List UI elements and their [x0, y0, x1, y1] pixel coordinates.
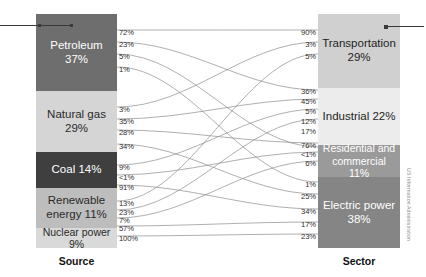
sector-flow-label: <1% — [301, 150, 316, 159]
node-natural-gas[interactable]: Natural gas 29% — [36, 91, 117, 152]
source-flow-label: 9% — [119, 163, 130, 172]
source-flow-label: 23% — [119, 40, 134, 49]
source-flow-label: 35% — [119, 117, 134, 126]
sector-flow-label: 6% — [305, 159, 316, 168]
source-flow-label: 91% — [119, 183, 134, 192]
source-flow-label: 28% — [119, 128, 134, 137]
node-residential-commercial-label: Residential and commercial 11% — [318, 142, 400, 179]
source-flow-label: 3% — [119, 105, 130, 114]
sector-flow-label: 45% — [301, 97, 316, 106]
source-flow-label: 1% — [119, 65, 130, 74]
node-coal-label: Coal 14% — [49, 163, 105, 177]
sector-flow-label: 5% — [305, 52, 316, 61]
sector-flow-label: 76% — [301, 141, 316, 150]
sector-flow-label: 1% — [305, 180, 316, 189]
sector-flow-label: 36% — [301, 87, 316, 96]
sector-flow-label: 25% — [301, 192, 316, 201]
sector-flow-label: 12% — [301, 117, 316, 126]
source-flow-label: 5% — [119, 52, 130, 61]
right-leader-line — [388, 26, 424, 27]
source-flow-label: <1% — [119, 173, 134, 182]
node-industrial-label: Industrial 22% — [320, 110, 399, 124]
axis-label-source: Source — [36, 255, 117, 267]
node-petroleum-label: Petroleum 37% — [36, 39, 117, 66]
node-industrial[interactable]: Industrial 22% — [318, 88, 400, 145]
axis-label-sector: Sector — [318, 255, 400, 267]
node-renewable-energy-label: Renewable energy 11% — [36, 194, 117, 221]
sector-flow-label: 23% — [301, 232, 316, 241]
node-electric-power-label: Electric power 38% — [318, 199, 400, 226]
source-flow-label: 100% — [119, 234, 138, 243]
sector-flow-label: 5% — [305, 107, 316, 116]
credit-text: US Information Administration — [406, 168, 412, 241]
sector-flow-label: 17% — [301, 127, 316, 136]
sector-flow-label: 3% — [305, 40, 316, 49]
left-leader-line — [0, 25, 40, 26]
node-nuclear-power[interactable]: Nuclear power 9% — [36, 228, 117, 248]
node-coal[interactable]: Coal 14% — [36, 152, 117, 188]
node-nuclear-power-label: Nuclear power 9% — [36, 226, 117, 251]
source-flow-label: 72% — [119, 28, 134, 37]
source-flow-label: 13% — [119, 199, 134, 208]
left-leader-line-inner — [40, 25, 72, 26]
left-leader-arrow — [70, 24, 73, 27]
node-transportation-label: Transportation 29% — [318, 37, 400, 64]
source-flow-label: 57% — [119, 224, 134, 233]
credit-wrapper: US Information Administration — [406, 168, 416, 268]
sankey-diagram: Petroleum 37% Natural gas 29% Coal 14% R… — [0, 0, 426, 277]
node-natural-gas-label: Natural gas 29% — [36, 108, 117, 135]
source-flow-label: 34% — [119, 142, 134, 151]
sector-flow-label: 90% — [301, 28, 316, 37]
node-electric-power[interactable]: Electric power 38% — [318, 177, 400, 248]
node-renewable-energy[interactable]: Renewable energy 11% — [36, 188, 117, 228]
sector-flow-label: 17% — [301, 220, 316, 229]
sector-flow-label: 34% — [301, 207, 316, 216]
node-residential-commercial[interactable]: Residential and commercial 11% — [318, 145, 400, 177]
